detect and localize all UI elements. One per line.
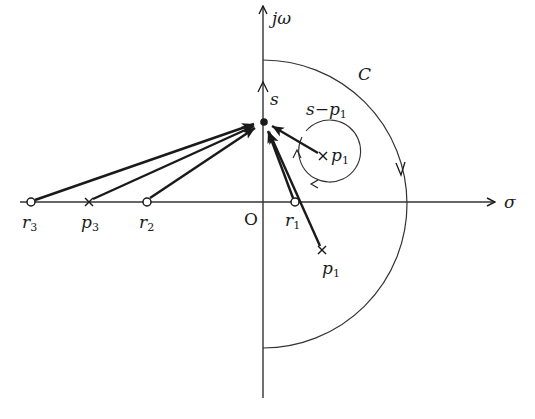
point-s-dot: [260, 118, 268, 126]
vector-r2-s: [150, 128, 255, 198]
diagram-canvas: [0, 0, 535, 419]
encircle-p1: [299, 120, 361, 182]
vector-label-main: s−p: [306, 99, 340, 119]
imag-axis-label: jω: [272, 10, 291, 27]
vector-label-sub: 1: [340, 108, 347, 121]
zero-r3-marker: [27, 198, 35, 206]
encircle-arrow-up-icon: [293, 150, 301, 158]
vector-p1upper-s: [272, 126, 318, 153]
vector-s-minus-p1-label: s−p1: [306, 101, 347, 120]
pole-p1-lower-marker: [318, 246, 326, 254]
encircle-arrow-left-icon: [311, 180, 318, 188]
label-r3: r3: [22, 214, 37, 233]
zero-r2-marker: [143, 198, 151, 206]
point-s-label: s: [270, 91, 279, 108]
zero-r1-marker: [291, 198, 299, 206]
label-p1-upper: p1: [331, 147, 349, 166]
real-axis-label: σ: [504, 194, 516, 211]
pole-p1-upper-marker: [319, 152, 327, 160]
vector-r3-s: [35, 124, 254, 200]
contour-label: C: [358, 66, 371, 83]
label-p1-lower: p1: [322, 260, 340, 279]
origin-label: O: [244, 211, 258, 228]
label-r2: r2: [139, 214, 154, 233]
s-plane-diagram: jω σ O C s s−p1 r3 p3 r2 r1 p1 p1: [0, 0, 535, 419]
label-p3: p3: [81, 214, 99, 233]
label-r1: r1: [285, 212, 300, 231]
vector-p3-s: [93, 126, 254, 199]
